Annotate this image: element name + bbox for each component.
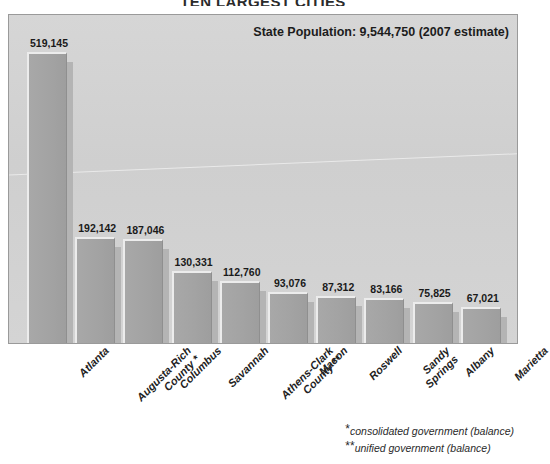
bar[interactable] xyxy=(220,281,260,344)
footnote-row: *consolidated government (balance) xyxy=(345,422,514,439)
bar[interactable] xyxy=(364,298,404,344)
category-label: Albany xyxy=(462,345,496,379)
chart-plot-area: State Population: 9,544,750 (2007 estima… xyxy=(8,14,518,344)
bar-value-label: 67,021 xyxy=(452,292,514,304)
category-axis-labels: AtlantaAugusta-Rich County *ColumbusSava… xyxy=(8,345,518,420)
bar-value-label: 187,046 xyxy=(114,224,176,236)
bar[interactable] xyxy=(172,271,212,344)
bar[interactable] xyxy=(316,296,356,344)
bar-series: 519,145192,142187,046130,331112,76093,07… xyxy=(9,15,518,344)
bar[interactable] xyxy=(461,307,501,344)
footnote-row: **unified government (balance) xyxy=(345,439,514,456)
footnote-text: unified government (balance) xyxy=(355,442,491,454)
category-label: Sandy Springs xyxy=(415,345,460,390)
bar[interactable] xyxy=(27,52,67,344)
chart-title: TEN LARGEST CITIES xyxy=(0,0,526,6)
bar[interactable] xyxy=(413,302,453,344)
bar[interactable] xyxy=(75,237,115,344)
footnote-text: consolidated government (balance) xyxy=(350,425,514,437)
category-label: Roswell xyxy=(367,345,405,383)
bar[interactable] xyxy=(123,239,163,344)
footnote-marker: ** xyxy=(345,439,354,453)
bar[interactable] xyxy=(268,292,308,344)
bar-value-label: 519,145 xyxy=(18,37,80,49)
footnotes: *consolidated government (balance)**unif… xyxy=(345,422,514,456)
category-label: Atlanta xyxy=(77,345,111,379)
category-label: Marietta xyxy=(512,345,550,383)
category-label: Savannah xyxy=(226,345,271,390)
